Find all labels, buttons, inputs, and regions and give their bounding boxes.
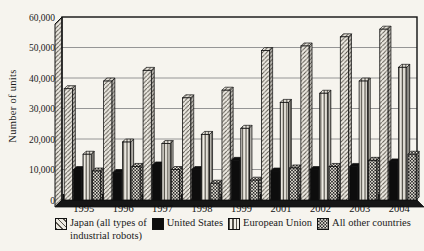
year-label-1998: 1998 <box>192 203 213 214</box>
bar-united-states-1999 <box>231 160 239 200</box>
legend-item-all-other-countries: All other countries <box>317 217 411 230</box>
ytick-label-10000: 10,000 <box>29 165 55 175</box>
bar-all-other-2004 <box>408 154 416 200</box>
axis-3d-left-wall <box>55 17 62 207</box>
bar-united-states-2001 <box>271 171 279 200</box>
bar-japan-all-2003 <box>340 37 348 200</box>
bar-european-union-1995 <box>83 154 91 200</box>
legend-item-european-union: European Union <box>228 217 312 230</box>
legend-label-european-union: European Union <box>243 217 312 230</box>
bar-chart-plot: 010,00020,00030,00040,00050,00060,000199… <box>0 0 424 251</box>
bar-european-union-2001 <box>280 102 288 200</box>
legend-label-japan-line1: Japan (all types of <box>70 217 147 230</box>
bar-all-other-1999 <box>250 180 258 200</box>
ytick-label-40000: 40,000 <box>29 74 55 84</box>
year-label-2002: 2002 <box>310 203 331 214</box>
legend-label-all-other-countries: All other countries <box>332 217 411 230</box>
legend-swatch-united-states-icon <box>152 218 164 230</box>
bar-japan-all-2004 <box>380 29 388 200</box>
bar-japan-all-2001 <box>261 51 269 200</box>
bar-european-union-2002 <box>320 93 328 200</box>
bar-japan-all-1998 <box>183 98 191 200</box>
bar-japan-all-1997 <box>143 70 151 200</box>
bar-european-union-1998 <box>201 134 209 200</box>
bar-united-states-1995 <box>74 170 82 201</box>
year-label-1999: 1999 <box>231 203 252 214</box>
bar-united-states-2002 <box>310 170 318 201</box>
legend: Japan (all types of industrial robots) U… <box>55 217 423 242</box>
bar-all-other-1997 <box>171 170 179 201</box>
bar-all-other-1995 <box>92 171 100 200</box>
legend-label-united-states: United States <box>167 217 223 230</box>
ytick-label-50000: 50,000 <box>29 43 55 53</box>
year-label-2004: 2004 <box>389 203 411 214</box>
year-label-1997: 1997 <box>152 203 173 214</box>
bar-european-union-1999 <box>241 128 249 200</box>
bar-japan-all-2002 <box>301 46 309 200</box>
year-label-1995: 1995 <box>73 203 94 214</box>
bar-european-union-2004 <box>399 67 407 200</box>
bar-european-union-1996 <box>122 142 130 200</box>
legend-label-japan-line2: industrial robots) <box>70 230 147 243</box>
legend-item-united-states: United States <box>152 217 223 230</box>
bar-united-states-2003 <box>350 166 358 200</box>
year-label-1996: 1996 <box>113 203 134 214</box>
year-label-2003: 2003 <box>349 203 370 214</box>
bar-all-other-1996 <box>132 166 140 200</box>
legend-swatch-japan-icon <box>55 218 67 230</box>
bar-united-states-1997 <box>152 165 160 200</box>
bar-japan-all-1999 <box>222 90 230 200</box>
bar-united-states-1996 <box>113 173 121 200</box>
bar-all-other-2004-side-shade <box>416 151 419 200</box>
ytick-label-60000: 60,000 <box>29 13 55 23</box>
bar-european-union-1997 <box>162 144 170 200</box>
figure-robot-supply-chart: Number of units 010,00020,00030,00040,00… <box>0 0 424 251</box>
bar-japan-all-1996 <box>104 81 112 200</box>
bar-all-other-2002 <box>329 166 337 200</box>
legend-item-japan: Japan (all types of industrial robots) <box>55 217 147 242</box>
bar-all-other-2003-side-shade <box>377 157 380 200</box>
bar-all-other-2003 <box>369 160 377 200</box>
legend-swatch-european-union-icon <box>228 218 240 230</box>
bar-united-states-1998 <box>192 170 200 201</box>
ytick-label-30000: 30,000 <box>29 104 55 114</box>
bar-european-union-2003 <box>359 81 367 200</box>
year-label-2001: 2001 <box>270 203 291 214</box>
bar-all-other-2001 <box>290 168 298 200</box>
bar-japan-all-1995 <box>64 89 72 200</box>
ytick-label-0: 0 <box>50 196 55 206</box>
ytick-label-20000: 20,000 <box>29 135 55 145</box>
bar-united-states-2004 <box>389 162 397 200</box>
bar-all-other-1998 <box>211 183 219 200</box>
legend-swatch-all-other-countries-icon <box>317 218 329 230</box>
